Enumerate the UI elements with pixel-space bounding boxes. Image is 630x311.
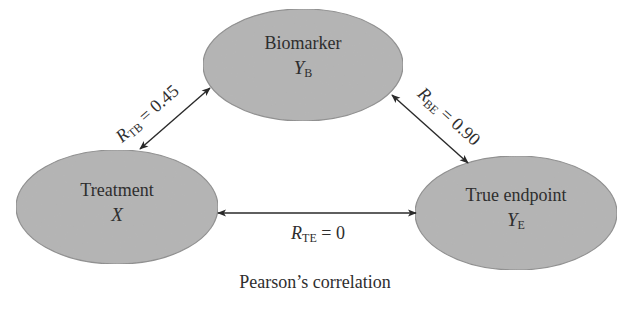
edge-label-te-value: = 0 (317, 223, 345, 243)
treatment-variable-symbol: X (111, 204, 123, 225)
biomarker-variable-symbol: Y (294, 57, 305, 78)
edge-label-te-symbol: R (291, 223, 302, 243)
endpoint-variable-subscript: E (518, 218, 525, 232)
treatment-title: Treatment (16, 180, 218, 202)
biomarker-variable-subscript: B (304, 66, 312, 80)
diagram-caption: Pearson’s correlation (0, 272, 630, 293)
edge-label-te-subscript: TE (302, 231, 317, 245)
treatment-variable: X (16, 204, 218, 227)
treatment-node: Treatment X (16, 180, 218, 227)
biomarker-variable: YB (203, 57, 403, 80)
endpoint-variable: YE (415, 209, 617, 232)
endpoint-node: True endpoint YE (415, 185, 617, 232)
endpoint-title: True endpoint (415, 185, 617, 207)
biomarker-title: Biomarker (203, 33, 403, 55)
biomarker-node: Biomarker YB (203, 33, 403, 80)
edge-label-te: RTE = 0 (260, 223, 376, 246)
endpoint-variable-symbol: Y (507, 209, 518, 230)
